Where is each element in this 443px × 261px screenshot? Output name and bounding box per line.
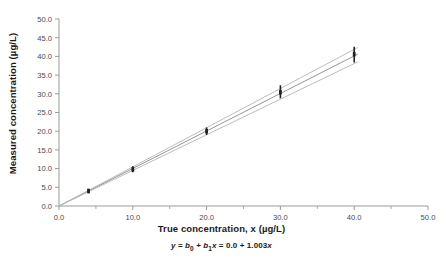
y-tick-label: 30.0 [37,90,52,99]
x-tick-label: 40.0 [347,213,362,222]
y-tick-label: 45.0 [37,34,52,43]
error-bar [131,166,134,172]
y-tick-label: 50.0 [37,15,52,24]
x-tick-label: 30.0 [273,213,288,222]
x-tick-label: 50.0 [421,213,436,222]
equation-plus: + [194,241,203,250]
y-tick-label: 20.0 [37,127,52,136]
x-axis-ticks: 0.010.020.030.040.050.0 [54,206,436,222]
calibration-chart: Measured concentration (µg/L) 0.05.010.0… [0,0,443,261]
lower-confidence-line [59,62,358,206]
plot-area: 0.05.010.015.020.025.030.035.040.045.050… [0,0,443,261]
error-bar [279,85,282,98]
y-tick-label: 0.0 [41,202,52,211]
y-tick-label: 5.0 [41,183,52,192]
y-tick-label: 35.0 [37,71,52,80]
x-axis-label: True concentration, x (µg/L) [0,223,443,234]
equation-intercept: 0.0 [226,241,237,250]
equation-slope: 1.003 [247,241,268,250]
upper-confidence-line [59,47,358,206]
y-axis-ticks: 0.05.010.015.020.025.030.035.040.045.050… [37,15,59,211]
y-tick-label: 10.0 [37,164,52,173]
equation-eq2: = [217,241,226,250]
x-tick-label: 0.0 [54,213,65,222]
regression-line [59,54,358,206]
x-tick-label: 20.0 [199,213,214,222]
y-axis-label: Measured concentration (µg/L) [7,4,18,204]
equation-eq1: = [176,241,185,250]
regression-lines [59,47,358,206]
equation-x-var2: x [267,241,272,250]
regression-equation: y = b0 + b1x = 0.0 + 1.003x [0,241,443,252]
x-tick-label: 10.0 [125,213,140,222]
error-bar [87,189,90,193]
y-tick-label: 15.0 [37,146,52,155]
y-tick-label: 40.0 [37,52,52,61]
equation-plus2: + [237,241,246,250]
y-tick-label: 25.0 [37,108,52,117]
